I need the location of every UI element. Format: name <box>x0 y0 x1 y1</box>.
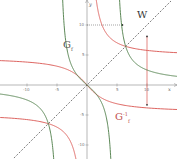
plot-canvas <box>0 0 177 159</box>
curves <box>0 0 177 159</box>
tick-x-neg5: -5 <box>55 88 59 92</box>
x-axis-label: x <box>168 87 171 92</box>
tick-x-pos5: 5 <box>116 88 119 92</box>
label-w: W <box>137 10 147 20</box>
curve-g-f-inverse <box>95 0 177 55</box>
label-g-finv-text: G <box>115 111 123 122</box>
point-marker <box>146 104 148 106</box>
function-inverse-plot: Gf G-1f W x y -10 -5 5 10 10 5 -5 -10 <box>0 0 177 159</box>
tick-y-neg5: -5 <box>80 113 84 117</box>
tick-y-neg10: -10 <box>78 143 85 147</box>
point-marker <box>146 36 148 38</box>
axes <box>0 0 177 159</box>
label-g-f: Gf <box>63 40 73 52</box>
label-g-f-text: G <box>63 39 71 50</box>
label-g-f-sub: f <box>71 46 73 52</box>
tick-x-neg10: -10 <box>23 88 30 92</box>
label-g-finv-sub: f <box>128 118 130 124</box>
tick-y-pos10: 10 <box>79 23 84 27</box>
tick-y-pos5: 5 <box>82 53 85 57</box>
curve-g-f-inverse <box>0 115 79 159</box>
label-g-finv-sup: -1 <box>123 111 128 117</box>
y-axis-label: y <box>89 2 92 7</box>
curve-g-f <box>0 93 57 159</box>
label-g-f-inverse: G-1f <box>115 112 130 124</box>
tick-x-pos10: 10 <box>144 88 149 92</box>
